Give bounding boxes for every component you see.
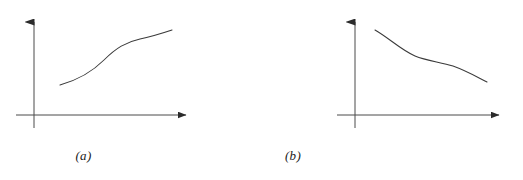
figure-root: (a) (b)	[0, 0, 523, 180]
panel-b-caption: (b)	[162, 148, 424, 164]
curve-a	[60, 30, 172, 85]
curve-b	[375, 30, 487, 82]
panel-b: (b)	[261, 0, 523, 180]
